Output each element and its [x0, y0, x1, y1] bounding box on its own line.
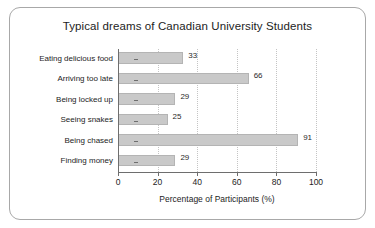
bar-value-label: 66: [254, 71, 263, 80]
y-axis-category-label: Eating delicious food: [39, 54, 113, 63]
y-axis-category-label: Seeing snakes: [61, 115, 113, 124]
x-axis-ticks: 020406080100: [118, 172, 316, 192]
x-axis-tick-mark: [158, 172, 159, 176]
y-axis-tick-mark: [134, 121, 138, 122]
bar-row: 25: [118, 111, 316, 132]
chart-figure: Typical dreams of Canadian University St…: [0, 0, 375, 228]
bar-row: 33: [118, 49, 316, 70]
bar-value-label: 29: [180, 92, 189, 101]
y-axis-spine: [118, 49, 119, 172]
x-axis-tick-mark: [237, 172, 238, 176]
y-axis-labels: Eating delicious foodArriving too lateBe…: [20, 49, 113, 172]
bar: [118, 93, 175, 105]
y-axis-category-label: Arriving too late: [57, 74, 113, 83]
bar-row: 91: [118, 131, 316, 152]
y-axis-tick-mark: [134, 80, 138, 81]
y-axis-category-label: Finding money: [61, 156, 113, 165]
x-axis-tick-mark: [118, 172, 119, 176]
bar: [118, 73, 249, 85]
bar: [118, 155, 175, 167]
x-axis-title: Percentage of Participants (%): [118, 194, 316, 204]
x-axis-tick-label: 0: [116, 177, 121, 187]
x-axis-tick-label: 80: [272, 177, 281, 187]
y-axis-tick-mark: [134, 100, 138, 101]
x-axis-tick-label: 40: [192, 177, 201, 187]
x-axis-tick-label: 20: [153, 177, 162, 187]
x-axis-tick-mark: [316, 172, 317, 176]
plot-area: 336629259129: [118, 49, 316, 172]
x-axis-tick-mark: [276, 172, 277, 176]
chart-title: Typical dreams of Canadian University St…: [0, 20, 375, 32]
bar-row: 29: [118, 152, 316, 173]
y-axis-category-label: Being locked up: [56, 95, 113, 104]
bar: [118, 52, 183, 64]
y-axis-tick-mark: [134, 141, 138, 142]
bar-series: 336629259129: [118, 49, 316, 172]
x-axis-tick-label: 100: [309, 177, 323, 187]
bar-value-label: 33: [188, 51, 197, 60]
y-axis-category-label: Being chased: [65, 136, 113, 145]
bar-value-label: 25: [173, 112, 182, 121]
x-axis-tick-label: 60: [232, 177, 241, 187]
y-axis-tick-mark: [134, 59, 138, 60]
bar-value-label: 91: [303, 133, 312, 142]
y-axis-tick-mark: [134, 162, 138, 163]
bar-row: 66: [118, 70, 316, 91]
x-axis-tick-mark: [197, 172, 198, 176]
bar: [118, 114, 168, 126]
bar: [118, 134, 298, 146]
bar-value-label: 29: [180, 153, 189, 162]
bar-row: 29: [118, 90, 316, 111]
